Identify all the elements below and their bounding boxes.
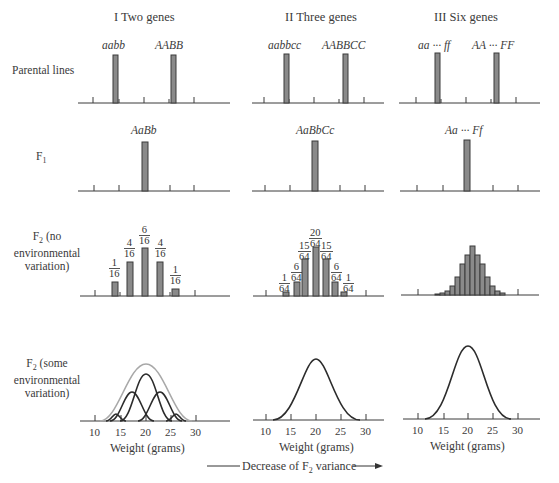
x-axis-label: Weight (grams) <box>279 440 354 455</box>
tick-label: 20 <box>310 425 321 437</box>
tick-label: 20 <box>140 426 151 438</box>
tick-label: 15 <box>438 424 449 436</box>
footer-suffix: variance <box>313 459 357 473</box>
bar-AaBb <box>142 142 148 191</box>
arrow-right-icon <box>375 463 383 469</box>
tick-label: 10 <box>89 426 100 438</box>
tick-label: 15 <box>115 426 126 438</box>
x-axis-label: Weight (grams) <box>430 439 505 454</box>
tick-label: 30 <box>190 426 201 438</box>
bar-aa-ff <box>435 53 440 103</box>
f2-bars-two-genes <box>112 248 179 296</box>
tick-label: 15 <box>285 425 296 437</box>
axis-ticks <box>94 185 518 191</box>
bar-AaBbCc <box>312 141 318 191</box>
footer-caption: Decrease of F2 variance <box>242 459 356 475</box>
bar-AABBCC <box>343 54 348 103</box>
axis-ticks <box>93 97 516 103</box>
bar-AABB <box>171 55 176 103</box>
tick-label: 10 <box>412 424 423 436</box>
bar-aabbcc <box>284 54 289 103</box>
x-axis-label: Weight (grams) <box>110 441 185 456</box>
gaussian-curve-three-genes <box>273 359 360 420</box>
tick-label: 25 <box>487 424 498 436</box>
tick-label: 25 <box>165 426 176 438</box>
bar-AA-FF <box>494 53 499 103</box>
tick-label: 30 <box>512 424 523 436</box>
tick-label: 10 <box>260 425 271 437</box>
tick-label: 20 <box>462 424 473 436</box>
f2-bars-six-genes <box>435 246 505 295</box>
f2-bars-three-genes <box>283 247 347 296</box>
footer-prefix: Decrease of F <box>242 459 309 473</box>
bar-aabb <box>113 55 118 103</box>
gaussian-curve-six-genes <box>425 346 511 419</box>
bar-Aa-Ff <box>464 140 470 191</box>
tick-label: 30 <box>360 425 371 437</box>
tick-label: 25 <box>335 425 346 437</box>
diagram-graphics <box>0 0 559 483</box>
